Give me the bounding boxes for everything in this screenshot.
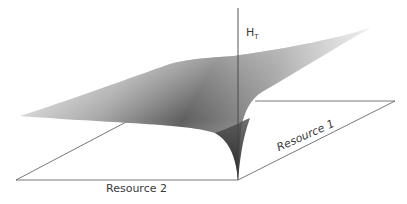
h-total-axis-label: HT [246, 26, 259, 41]
surface-diagram [0, 0, 407, 204]
surface [20, 28, 370, 180]
h-label-subscript: T [254, 33, 258, 41]
resource-2-label: Resource 2 [106, 182, 167, 195]
resource-1-axis-line [238, 101, 395, 180]
left-diagonal-line [16, 121, 128, 180]
